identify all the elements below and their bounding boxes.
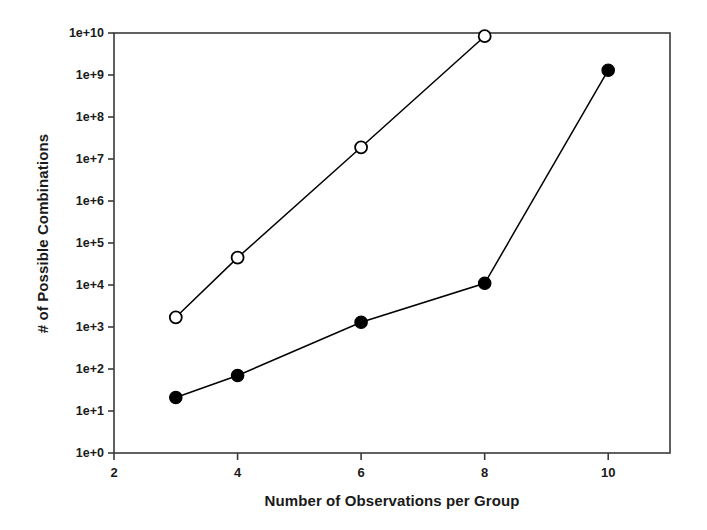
data-point-open-circle [170,311,182,323]
y-axis-tick-label: 1e+3 [76,320,104,334]
x-axis-tick-label: 10 [601,465,615,480]
data-point-filled-circle [602,64,614,76]
x-axis-tick-label: 8 [481,465,488,480]
x-axis-tick-label: 2 [110,465,117,480]
y-axis-tick-label: 1e+1 [76,404,104,418]
y-axis-tick-label: 1e+8 [76,110,104,124]
series-line-open-circle-series [176,36,485,317]
data-point-filled-circle [170,391,182,403]
data-point-filled-circle [479,277,491,289]
data-point-open-circle [232,252,244,264]
y-axis-label: # of Possible Combinations [34,74,51,394]
data-point-open-circle [479,30,491,42]
y-axis-tick-labels: 1e+01e+11e+21e+31e+41e+51e+61e+71e+81e+9… [0,0,104,530]
y-axis-tick-label: 1e+10 [69,26,104,40]
y-axis-tick-label: 1e+7 [76,152,104,166]
y-axis-tick-label: 1e+0 [76,446,104,460]
y-axis-tick-label: 1e+6 [76,194,104,208]
x-axis-tick-label: 6 [357,465,364,480]
data-point-open-circle [355,141,367,153]
x-axis-tick-label: 4 [234,465,241,480]
x-axis-label: Number of Observations per Group [114,492,670,509]
y-axis-tick-label: 1e+4 [76,278,104,292]
chart-figure: 1e+01e+11e+21e+31e+41e+51e+61e+71e+81e+9… [0,0,707,530]
data-point-filled-circle [355,316,367,328]
y-axis-tick-label: 1e+9 [76,68,104,82]
y-axis-tick-label: 1e+2 [76,362,104,376]
chart-plot-area [0,0,707,530]
y-axis-tick-label: 1e+5 [76,236,104,250]
data-point-filled-circle [231,369,243,381]
